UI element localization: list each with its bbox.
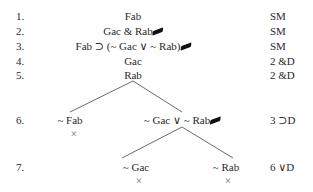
right-branch-formula-checked: ~ Gac ∨ ~ Rab	[144, 114, 220, 126]
formula-checked: Gac & Rab	[103, 25, 162, 37]
formula: Gac	[124, 55, 142, 67]
line-number: 1.	[16, 10, 24, 22]
formula: Rab	[124, 69, 142, 81]
checkmark-icon	[153, 27, 164, 35]
formula-checked: Fab ⊃ (~ Gac ∨ ~ Rab)	[76, 40, 191, 52]
left-branch-formula: ~ Gac	[123, 161, 149, 173]
closed-branch-marker: ×	[136, 175, 143, 187]
line-number: 5.	[16, 69, 24, 81]
checkmark-icon	[210, 116, 221, 124]
left-branch-formula: ~ Fab	[57, 114, 82, 126]
line-number: 6.	[16, 114, 24, 126]
line-number: 2.	[16, 25, 24, 37]
formula: Fab ⊃ (~ Gac ∨ ~ Rab)	[76, 40, 181, 52]
line-number: 7.	[16, 161, 24, 173]
justification: 3 ⊃D	[270, 114, 295, 126]
line-number: 4.	[16, 55, 24, 67]
closed-branch-marker: ×	[225, 175, 232, 187]
checkmark-icon	[181, 42, 192, 50]
line-number: 3.	[16, 40, 24, 52]
justification: 2 &D	[270, 55, 295, 67]
justification: SM	[270, 10, 286, 22]
closed-branch-marker: ×	[71, 128, 78, 140]
formula: Gac & Rab	[103, 25, 152, 37]
justification: 2 &D	[270, 69, 295, 81]
formula: Fab	[125, 10, 142, 22]
right-branch-formula: ~ Rab	[213, 161, 239, 173]
formula: ~ Gac ∨ ~ Rab	[144, 114, 210, 126]
justification: SM	[270, 40, 286, 52]
justification: 6 ∨D	[270, 161, 294, 173]
justification: SM	[270, 25, 286, 37]
